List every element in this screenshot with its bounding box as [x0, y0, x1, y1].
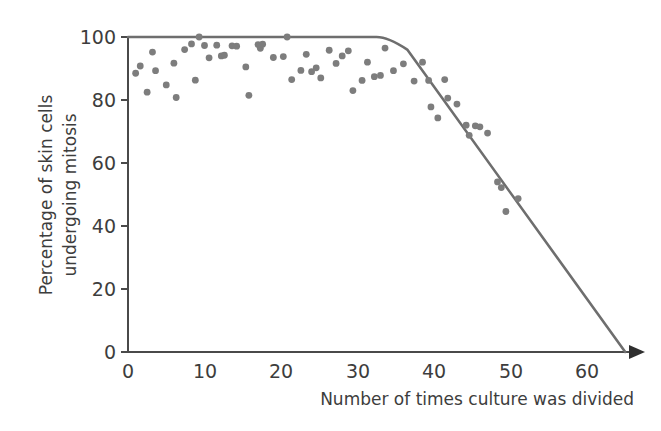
- y-tick-label-80: 80: [92, 89, 116, 111]
- data-point: [411, 78, 418, 85]
- data-point: [333, 60, 340, 67]
- x-tick-label-10: 10: [193, 360, 217, 382]
- data-point: [326, 47, 333, 54]
- data-point: [171, 60, 178, 67]
- data-point: [498, 184, 505, 191]
- data-point: [163, 81, 170, 88]
- y-tick-label-60: 60: [92, 152, 116, 174]
- data-point: [284, 34, 291, 41]
- data-point: [288, 76, 295, 83]
- data-point: [428, 104, 435, 111]
- data-point: [441, 76, 448, 83]
- data-point: [137, 63, 144, 70]
- data-point: [313, 64, 320, 71]
- x-tick-label-60: 60: [575, 360, 599, 382]
- data-point: [400, 60, 407, 67]
- data-point: [444, 95, 451, 102]
- data-point: [233, 43, 240, 50]
- data-point: [371, 73, 378, 80]
- data-point: [280, 53, 287, 60]
- y-tick-label-100: 100: [80, 26, 116, 48]
- data-point: [152, 67, 159, 74]
- x-tick-label-20: 20: [269, 360, 293, 382]
- data-point: [303, 51, 310, 58]
- data-point: [339, 53, 346, 60]
- data-point: [181, 46, 188, 53]
- data-point: [454, 101, 461, 108]
- data-point: [317, 75, 324, 82]
- data-point: [259, 41, 266, 48]
- data-point: [270, 54, 277, 61]
- y-tick-label-0: 0: [104, 341, 116, 363]
- data-point: [382, 45, 389, 52]
- data-point: [213, 42, 220, 49]
- data-point: [350, 87, 357, 94]
- x-tick-label-0: 0: [122, 360, 134, 382]
- data-point: [484, 130, 491, 137]
- chart-figure: 0 20 40 60 80 100 0 10 20 30 40 50 60 Nu…: [0, 0, 661, 431]
- data-point: [144, 89, 151, 96]
- data-point: [132, 70, 139, 77]
- x-tick-label-40: 40: [422, 360, 446, 382]
- data-point: [206, 54, 213, 61]
- x-axis-title: Number of times culture was divided: [320, 389, 634, 409]
- data-point: [149, 49, 156, 56]
- data-point: [364, 59, 371, 66]
- data-point: [359, 77, 366, 84]
- data-point: [221, 52, 228, 59]
- data-point: [345, 47, 352, 54]
- data-point: [494, 179, 501, 186]
- data-point: [390, 67, 397, 74]
- data-point: [173, 94, 180, 101]
- scatter-plot: 0 20 40 60 80 100 0 10 20 30 40 50 60 Nu…: [0, 0, 661, 431]
- y-tick-label-20: 20: [92, 278, 116, 300]
- data-point: [192, 77, 199, 84]
- data-point: [242, 64, 249, 71]
- data-point: [503, 208, 510, 215]
- data-point: [434, 115, 441, 122]
- y-axis-title-line1: Percentage of skin cells: [36, 95, 56, 296]
- x-tick-label-30: 30: [346, 360, 370, 382]
- data-point: [201, 42, 208, 49]
- data-point: [477, 123, 484, 130]
- data-point: [515, 195, 522, 202]
- y-axis-title-line2: undergoing mitosis: [60, 113, 80, 276]
- data-point: [466, 132, 473, 139]
- data-point: [463, 122, 470, 129]
- data-point: [377, 72, 384, 79]
- data-point: [425, 77, 432, 84]
- data-point: [245, 92, 252, 99]
- data-point: [196, 34, 203, 41]
- data-point: [188, 41, 195, 48]
- data-point: [297, 67, 304, 74]
- x-tick-label-50: 50: [499, 360, 523, 382]
- y-tick-label-40: 40: [92, 215, 116, 237]
- data-point: [419, 59, 426, 66]
